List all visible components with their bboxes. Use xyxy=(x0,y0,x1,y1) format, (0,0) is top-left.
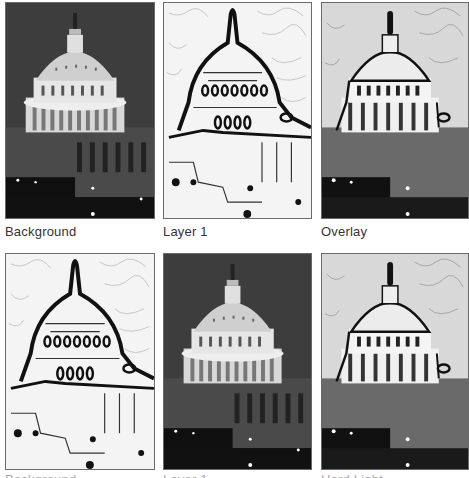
layer1-image xyxy=(163,2,312,219)
hard-light-result-image xyxy=(321,253,469,470)
layer1-photo-image xyxy=(163,253,312,470)
panel-label-overlay: Overlay xyxy=(321,224,367,239)
panel-label-row2-1: Background xyxy=(5,472,155,478)
panel-label-row2-2: Layer 1 xyxy=(163,472,312,478)
capitol-photo-dark-2 xyxy=(164,254,311,469)
panel-label-layer1: Layer 1 xyxy=(163,224,208,239)
background-layer-image xyxy=(5,2,155,219)
panel-label-clip-6: Hard Light xyxy=(321,472,469,478)
panel-label-clip-4: Background xyxy=(5,472,155,478)
capitol-sketch-2 xyxy=(6,254,154,469)
panel-label-clip-5: Layer 1 xyxy=(163,472,312,478)
background-sketch-image xyxy=(5,253,155,470)
panel-label-row2-3: Hard Light xyxy=(321,472,469,478)
capitol-photo-dark xyxy=(6,3,154,218)
panel-label-background: Background xyxy=(5,224,76,239)
capitol-blend xyxy=(322,3,468,218)
overlay-result-image xyxy=(321,2,469,219)
capitol-sketch xyxy=(164,3,311,218)
capitol-blend-2 xyxy=(322,254,468,469)
